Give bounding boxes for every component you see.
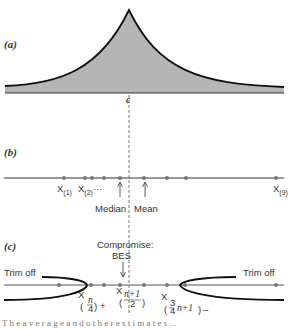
median-label: Median <box>95 203 126 214</box>
trim-off-right: Trim off <box>243 267 275 278</box>
svg-text:2: 2 <box>130 298 135 309</box>
estimator-diagram: (a) c (b) X(1) X(2)··· X(9) Median Mean … <box>0 0 296 329</box>
svg-text:(: ( <box>119 297 123 308</box>
svg-text:(: ( <box>164 304 168 315</box>
svg-text:X: X <box>116 285 123 296</box>
mean-label: Mean <box>134 203 158 214</box>
label-x2: X(2)··· <box>78 183 102 197</box>
svg-text:): ) <box>198 304 201 315</box>
svg-text:n+1: n+1 <box>177 303 193 313</box>
svg-text:): ) <box>94 301 97 312</box>
svg-text:X: X <box>78 289 85 300</box>
compromise-label: Compromise: <box>97 239 154 250</box>
panel-a-label: (a) <box>4 38 17 51</box>
trim-off-left: Trim off <box>4 267 36 278</box>
mean-arrow <box>143 182 148 197</box>
label-x1: X(1) <box>57 183 72 197</box>
svg-text:4: 4 <box>88 303 93 314</box>
label-x9: X(9) <box>273 183 288 197</box>
svg-text:(: ( <box>80 301 84 312</box>
trim-bracket-left <box>4 277 87 300</box>
caption-fragment: T h e a v e r a g e a n d o t h e r e s … <box>2 318 294 329</box>
svg-text:): ) <box>142 297 145 308</box>
label-middle-order-stat: X ( n+1 2 ) <box>116 285 145 309</box>
trim-bracket-right <box>180 277 284 300</box>
bes-label: BES <box>112 250 131 261</box>
median-arrow <box>118 182 123 197</box>
svg-text:–: – <box>203 304 209 315</box>
svg-text:+: + <box>100 300 106 311</box>
center-label-c: c <box>126 94 131 105</box>
panel-c-label: (c) <box>4 240 16 253</box>
bes-arrow <box>121 262 126 277</box>
svg-text:X: X <box>161 291 168 302</box>
panel-b-label: (b) <box>4 146 17 159</box>
label-lower-quartile: X ( n 4 ) + <box>78 289 106 314</box>
svg-text:4: 4 <box>170 305 175 316</box>
